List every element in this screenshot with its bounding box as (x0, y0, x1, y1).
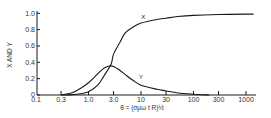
y-tick-label: 0.4 (25, 59, 35, 66)
x-tick-label: 300 (213, 96, 225, 103)
x-tick-label: 3.0 (109, 96, 119, 103)
chart: 00.20.40.60.81.0 0.10.31.03.010301003001… (0, 0, 271, 118)
plot-area: 00.20.40.60.81.0 0.10.31.03.010301003001… (25, 10, 256, 103)
series-x-label: X (141, 14, 145, 20)
x-axis-title: θ = (σμω t R)½ (120, 104, 164, 112)
x-tick-label: 100 (188, 96, 200, 103)
series-y-line (61, 66, 209, 95)
x-tick-label: 30 (162, 96, 170, 103)
x-tick-label: 1000 (238, 96, 254, 103)
x-ticks: 0.10.31.03.010301003001000 (31, 91, 254, 103)
x-tick-label: 0.3 (56, 96, 66, 103)
y-tick-label: 0.6 (25, 42, 35, 49)
x-tick-label: 1.0 (84, 96, 94, 103)
y-tick-label: 0.8 (25, 26, 35, 33)
y-axis-title: X AND Y (6, 42, 13, 68)
curves: XY (61, 14, 254, 95)
y-tick-label: 1.0 (25, 10, 35, 17)
series-x-line (61, 14, 254, 95)
series-y-label: Y (139, 74, 143, 80)
x-tick-label: 0.1 (31, 96, 41, 103)
x-tick-label: 10 (137, 96, 145, 103)
y-tick-label: 0.2 (25, 75, 35, 82)
y-ticks: 00.20.40.60.81.0 (25, 10, 40, 99)
